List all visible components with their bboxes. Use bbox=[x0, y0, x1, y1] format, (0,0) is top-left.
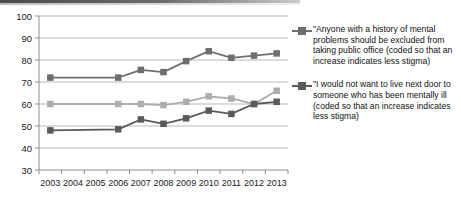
y-axis-tick-label: 40 bbox=[21, 143, 32, 154]
x-axis-tick-label: 2005 bbox=[86, 178, 106, 188]
x-axis-tick-label: 2010 bbox=[199, 178, 219, 188]
data-point-marker bbox=[183, 58, 190, 65]
data-point-marker bbox=[115, 101, 122, 108]
legend-label: "I would not want to live next door to s… bbox=[313, 79, 459, 121]
data-point-marker bbox=[228, 95, 235, 102]
x-axis-tick-label: 2006 bbox=[108, 178, 128, 188]
x-axis-tick-label: 2011 bbox=[222, 178, 241, 188]
legend-entry: "I would not want to live next door to s… bbox=[292, 79, 461, 121]
y-axis-ticks bbox=[35, 16, 39, 170]
y-axis-tick-label: 100 bbox=[16, 11, 32, 22]
data-point-marker bbox=[47, 101, 54, 108]
data-point-marker bbox=[115, 126, 122, 133]
data-point-marker bbox=[138, 116, 145, 123]
data-point-marker bbox=[251, 52, 258, 59]
data-point-marker bbox=[47, 74, 54, 81]
data-point-marker bbox=[273, 99, 280, 106]
x-axis-tick-label: 2012 bbox=[244, 178, 264, 188]
data-point-marker bbox=[228, 111, 235, 118]
data-series-group bbox=[47, 48, 280, 134]
data-point-marker bbox=[251, 101, 258, 108]
y-axis-tick-label: 60 bbox=[21, 99, 32, 110]
data-point-marker bbox=[206, 48, 213, 55]
data-point-marker bbox=[183, 99, 190, 106]
x-axis-tick-label: 2008 bbox=[153, 178, 173, 188]
y-axis-tick-label: 50 bbox=[21, 121, 32, 132]
chart-legend: "Anyone with a history of mental problem… bbox=[292, 24, 461, 135]
data-point-marker bbox=[47, 127, 54, 133]
y-axis-labels: 10090807060504030 bbox=[16, 11, 32, 176]
chart-figure: 10090807060504030 2003200420052006200720… bbox=[0, 0, 461, 209]
data-point-marker bbox=[273, 50, 280, 57]
data-point-marker bbox=[206, 93, 213, 100]
gridlines bbox=[39, 16, 288, 148]
data-point-marker bbox=[160, 102, 167, 109]
plot-area: 10090807060504030 2003200420052006200720… bbox=[0, 0, 292, 209]
data-point-marker bbox=[160, 121, 167, 128]
data-point-marker bbox=[183, 115, 190, 122]
x-axis-tick-label: 2004 bbox=[63, 178, 83, 188]
data-point-marker bbox=[228, 55, 235, 62]
x-axis-ticks bbox=[39, 170, 288, 174]
line-chart-svg: 10090807060504030 2003200420052006200720… bbox=[0, 0, 292, 209]
data-point-marker bbox=[115, 74, 122, 81]
legend-marker-icon bbox=[292, 80, 312, 91]
data-point-marker bbox=[138, 67, 145, 74]
y-axis-tick-label: 90 bbox=[21, 33, 32, 44]
y-axis-tick-label: 30 bbox=[21, 165, 32, 176]
legend-label: "Anyone with a history of mental problem… bbox=[313, 24, 459, 66]
x-axis-tick-label: 2007 bbox=[131, 178, 151, 188]
data-point-marker bbox=[273, 88, 280, 95]
x-axis-tick-label: 2009 bbox=[176, 178, 196, 188]
y-axis-tick-label: 80 bbox=[21, 55, 32, 66]
y-axis-tick-label: 70 bbox=[21, 77, 32, 88]
legend-entry: "Anyone with a history of mental problem… bbox=[292, 24, 461, 66]
data-point-marker bbox=[206, 107, 213, 114]
x-axis-labels: 2003200420052006200720082009201020112012… bbox=[40, 178, 286, 188]
data-point-marker bbox=[160, 69, 167, 76]
data-point-marker bbox=[138, 101, 145, 108]
x-axis-tick-label: 2003 bbox=[40, 178, 60, 188]
legend-marker-icon bbox=[292, 25, 312, 36]
x-axis-tick-label: 2013 bbox=[267, 178, 287, 188]
